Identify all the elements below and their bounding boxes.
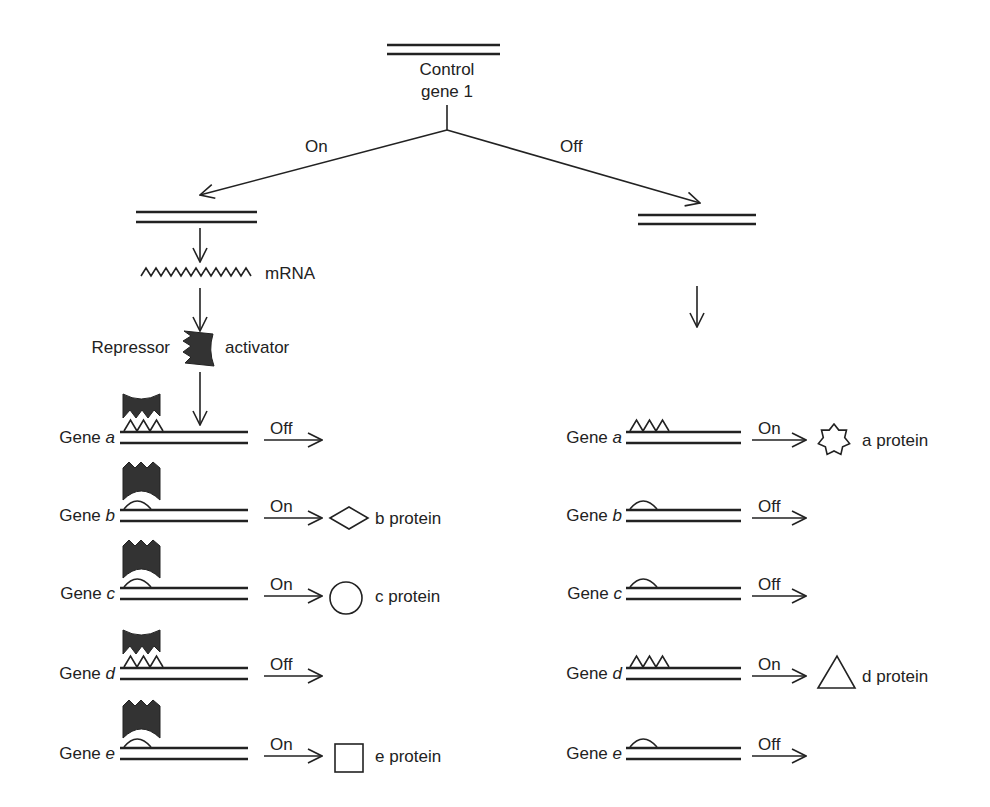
off-branch-label: Off [560,137,583,156]
dome-binding-site-icon [630,579,657,587]
repressor-label: Repressor [92,338,171,357]
control-gene-label-line1: Control [420,60,475,79]
right-gene-row-b: Gene bOff [566,497,806,525]
on-branch-label: On [305,137,328,156]
activator-label: activator [225,338,290,357]
circle-protein-icon [330,582,362,614]
repressor-bound-icon [123,630,160,654]
protein-label: e protein [375,747,441,766]
dome-binding-site-icon [630,739,657,747]
left-gene-row-d: Gene dOff [59,630,322,683]
left-gene-list: Gene aOffGene bOnb proteinGene cOnc prot… [59,394,441,772]
gene-label: Gene b [59,506,115,525]
control-gene-1: Control gene 1 [387,45,500,101]
right-gene-row-d: Gene dOnd protein [566,655,928,688]
right-pathway [638,215,756,327]
triangle-binding-site-icon [630,656,669,667]
repressor-activator-protein-icon [183,331,214,366]
dome-binding-site-icon [630,501,657,509]
protein-label: b protein [375,509,441,528]
protein-label: a protein [862,431,928,450]
gene-label: Gene c [60,584,115,603]
triangle-binding-site-icon [630,420,669,431]
gene-label: Gene b [566,506,622,525]
gene-label: Gene e [59,744,115,763]
square-protein-icon [335,744,363,772]
right-gene-list: Gene aOna proteinGene bOffGene cOffGene … [566,419,928,763]
star-protein-icon [818,424,849,454]
protein-label: c protein [375,587,440,606]
triangle-binding-site-icon [124,656,163,667]
expression-state-label: Off [758,497,781,516]
protein-label: d protein [862,667,928,686]
diamond-protein-icon [330,507,368,529]
repressor-bound-icon [123,394,160,418]
expression-state-label: On [758,655,781,674]
activator-bound-icon [123,700,160,738]
mrna-label: mRNA [265,264,316,283]
expression-state-label: Off [758,575,781,594]
left-gene-row-c: Gene cOnc protein [60,540,440,614]
triangle-protein-icon [818,656,855,688]
gene-label: Gene e [566,744,622,763]
expression-state-label: On [270,735,293,754]
activator-bound-icon [123,540,160,578]
right-gene-row-e: Gene eOff [566,735,806,763]
expression-state-label: Off [270,419,293,438]
left-gene-row-a: Gene aOff [59,394,322,447]
mrna-wave-icon [141,268,251,276]
gene-label: Gene d [59,664,115,683]
expression-state-label: On [270,497,293,516]
gene-label: Gene a [566,428,622,447]
left-gene-row-b: Gene bOnb protein [59,462,441,529]
control-gene-label-line2: gene 1 [421,82,473,101]
activator-bound-icon [123,462,160,500]
gene-label: Gene c [567,584,622,603]
right-gene-row-c: Gene cOff [567,575,806,603]
left-gene-row-e: Gene eOne protein [59,700,441,772]
left-pathway: mRNA Repressor activator [92,212,316,425]
expression-state-label: Off [758,735,781,754]
branch-arrows: On Off [200,105,700,203]
right-gene-row-a: Gene aOna protein [566,419,928,454]
gene-label: Gene a [59,428,115,447]
triangle-binding-site-icon [124,420,163,431]
gene-label: Gene d [566,664,622,683]
gene-regulation-diagram: Control gene 1 On Off mRNA Repressor act… [0,0,990,807]
expression-state-label: Off [270,655,293,674]
expression-state-label: On [758,419,781,438]
expression-state-label: On [270,575,293,594]
